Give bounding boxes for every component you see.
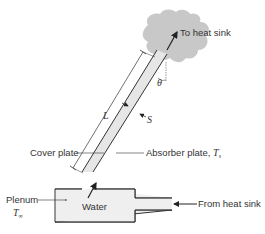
cover-plate-label: Cover plate [30, 147, 79, 158]
plenum-label: Plenum [6, 194, 38, 205]
length-L-label: L [102, 110, 109, 121]
absorber-plate-callout: Absorber plate, Ts [116, 147, 222, 159]
absorber-temp-subscript: s [219, 153, 222, 159]
plenum: Water [55, 172, 172, 222]
spacing-S-label: S [147, 114, 152, 125]
angle-theta-label: θ [157, 77, 162, 88]
svg-text:Absorber plate, Ts: Absorber plate, Ts [146, 147, 222, 159]
from-heat-sink-label: From heat sink [198, 198, 261, 209]
length-dimension: L [70, 50, 155, 173]
plenum-temp-subscript: ∞ [19, 213, 24, 219]
solar-collector-diagram: θ L S Water To heat sink From heat sink [0, 0, 265, 234]
to-heat-sink-label: To heat sink [180, 27, 231, 38]
absorber-plate-label: Absorber plate, [146, 147, 213, 158]
svg-text:T∞: T∞ [13, 207, 24, 219]
water-label: Water [82, 201, 107, 212]
